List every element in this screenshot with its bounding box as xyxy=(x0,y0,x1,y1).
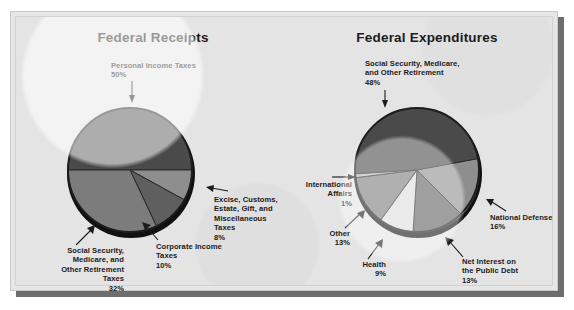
leader-arrow-net-interest xyxy=(445,237,467,259)
leader-arrow-social-security-receipts xyxy=(74,225,96,247)
chart-panel-federal-receipts: Federal Receipts xyxy=(16,17,290,289)
callout-international-affairs: International Affairs 1% xyxy=(284,180,352,208)
pie-chart-federal-expenditures xyxy=(353,106,481,234)
callout-other: Other 13% xyxy=(290,229,350,248)
pie-slices-federal-receipts xyxy=(66,106,194,234)
chart-title-federal-receipts: Federal Receipts xyxy=(16,30,290,45)
pie-slice-personal-income-taxes[interactable] xyxy=(68,108,192,170)
callout-net-interest-on-the-public-debt: Net Interest on the Public Debt 13% xyxy=(462,257,518,285)
leader-arrow-social-security-expenditures xyxy=(381,90,393,108)
chart-panel-federal-expenditures: Federal Expenditures xyxy=(290,17,564,289)
pie-slices-federal-expenditures xyxy=(353,106,481,234)
callout-national-defense: National Defense 16% xyxy=(490,213,552,232)
leader-arrow-international-affairs xyxy=(332,173,356,183)
figure-plate-inner: Federal Receipts xyxy=(15,16,553,286)
leader-arrow-excise xyxy=(206,185,228,197)
chart-title-federal-expenditures: Federal Expenditures xyxy=(290,30,564,45)
figure-plate: Federal Receipts xyxy=(10,11,558,291)
pie-chart-federal-receipts xyxy=(66,106,194,234)
callout-excise-customs-estate-gift-misc-taxes: Excise, Customs, Estate, Gift, and Misce… xyxy=(214,195,278,242)
leader-arrow-personal-income-taxes xyxy=(128,81,140,103)
figure-root: Federal Receipts xyxy=(0,0,574,310)
leader-arrow-other xyxy=(345,210,367,230)
leader-arrow-corporate-income-taxes xyxy=(142,222,162,242)
leader-arrow-national-defense xyxy=(486,199,508,213)
callout-health: Health 9% xyxy=(316,260,386,279)
callout-social-security-medicare-other-retirement-taxes: Social Security, Medicare, and Other Ret… xyxy=(16,246,124,293)
callout-personal-income-taxes: Personal Income Taxes 50% xyxy=(111,61,196,80)
callout-corporate-income-taxes: Corporate Income Taxes 10% xyxy=(156,242,222,270)
leader-arrow-health xyxy=(366,239,386,261)
callout-social-security-medicare-other-retirement: Social Security, Medicare, and Other Ret… xyxy=(365,59,459,87)
